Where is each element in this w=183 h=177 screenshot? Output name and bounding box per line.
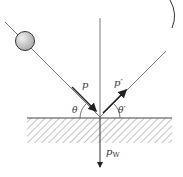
ball [16, 32, 35, 51]
label-p-prime: p′ [114, 77, 123, 88]
incident-angle-arc [80, 104, 86, 118]
label-pw-sub: W [112, 151, 120, 159]
decorative-curve [170, 0, 175, 28]
label-theta: θ [72, 105, 78, 115]
label-pw: pW [106, 146, 120, 159]
reflection-diagram: p p′ θ θ′ pW [0, 0, 183, 177]
label-p: p [82, 79, 89, 90]
label-theta-prime: θ′ [118, 105, 125, 115]
